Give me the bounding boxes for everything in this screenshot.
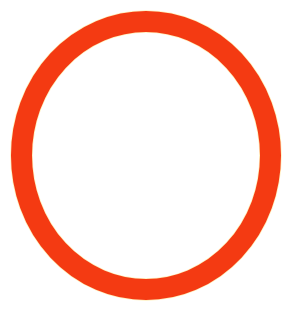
ring-shape bbox=[22, 22, 271, 290]
ring-graphic bbox=[0, 0, 308, 322]
ring-halo-inner bbox=[32, 32, 260, 279]
image-canvas bbox=[0, 0, 308, 322]
